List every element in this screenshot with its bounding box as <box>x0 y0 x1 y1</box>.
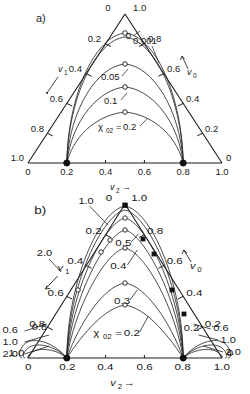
panel-a-bottomright-label: 0 <box>226 152 231 163</box>
panel-b-bottom-tick-1: 0.2 <box>59 361 75 372</box>
panel-a-bottom-tick-1: 0.2 <box>60 166 73 177</box>
panel-b-left-tick-1: 0.4 <box>67 255 83 266</box>
panel-b-right-tick-2: 0.4 <box>186 287 202 298</box>
panel-a-contour-label-text-3: 0.1 <box>104 95 117 106</box>
panel-a-contour-label-3: 0.1 <box>104 93 127 106</box>
panel-a-bottom-tick-5: 1.0 <box>215 166 228 177</box>
panel-b-contour-label-3: 0.3 <box>114 290 137 306</box>
panel-a-bottom-tick-0: 0 <box>25 166 30 177</box>
panel-b-leader-left-text-1: 1.0 <box>2 337 18 347</box>
panel-b-bottom-axis-name: v 2 → <box>110 378 134 391</box>
panel-b-apex-left-label: 0 <box>106 192 113 203</box>
panel-b-bottom-axis-symbol: v <box>110 378 117 388</box>
panel-a-right-tick-1: 0.6 <box>167 63 180 74</box>
panel-a-chi-value: 0.2 <box>123 121 136 132</box>
panel-a-right-axis-name: v 0 <box>181 56 198 79</box>
panel-b: b) 0 1.0 1.0 0 0 0.2 0.4 0.6 0.8 1.0 v 2… <box>0 190 250 394</box>
panel-a-left-tick-0: 0.2 <box>88 33 101 44</box>
panel-b-bottom-axis-arrow: → <box>124 378 135 388</box>
panel-b-contour-label-text-2: 0.4 <box>110 260 126 271</box>
panel-b-extra-left-label-text: 2.0 <box>37 248 53 258</box>
panel-a-left-tick-1: 0.4 <box>69 63 82 74</box>
panel-a-contour-label-text-1: 0.001 <box>133 35 157 46</box>
panel-b-contour-label-text-0: 1.0 <box>78 196 94 206</box>
panel-b-left-axis-sub: 1 <box>65 268 69 276</box>
panel-b-leader-right-text-1: 1.0 <box>221 335 237 345</box>
panel-b-left-tick-0: 0.2 <box>86 225 102 236</box>
panel-a-chi-equals: = <box>116 121 122 132</box>
panel-b-text-layer: b) 0 1.0 1.0 0 0 0.2 0.4 0.6 0.8 1.0 v 2… <box>2 192 241 391</box>
panel-a-apex-left-label: 0 <box>105 2 110 13</box>
panel-b-chi-value: 0.2 <box>124 327 140 338</box>
panel-b-leader-top: 1.0 <box>78 196 107 225</box>
panel-b-contour-label-text-3: 0.3 <box>114 295 130 306</box>
panel-b-label: b) <box>34 204 46 217</box>
panel-a-label: a) <box>36 12 46 24</box>
panel-b-bottom-tick-3: 0.6 <box>137 361 153 372</box>
panel-b-contours-outer <box>19 341 230 358</box>
panel-b-bottom-tick-0: 0 <box>25 361 32 372</box>
panel-b-left-axis-name: v 1 <box>45 263 69 289</box>
panel-a-left-axis-name: v 1 <box>46 64 68 94</box>
panel-b-right-tick-1: 0.6 <box>167 255 183 266</box>
panel-a-bottom-tick-4: 0.8 <box>177 166 190 177</box>
panel-a-left-axis-symbol: v <box>58 64 63 74</box>
panel-b-leaders-right: 0.6 1.0 2.0 0.2 <box>184 323 241 357</box>
panel-b-right-axis-name: v 0 <box>182 250 202 274</box>
panel-a-bottomleft-label: 1.0 <box>11 152 24 163</box>
panel-b-chi-symbol: χ <box>93 327 100 338</box>
panel-a-right-ticks <box>139 44 203 136</box>
panel-b-plot: b) 0 1.0 1.0 0 0 0.2 0.4 0.6 0.8 1.0 v 2… <box>0 190 250 394</box>
panel-a-contours <box>67 33 183 163</box>
panel-b-leader-right-text-2: 2.0 <box>225 347 241 357</box>
panel-b-leader-left-08: 0.8 <box>32 322 48 332</box>
panel-b-leader-right-02: 0.2 <box>184 323 200 333</box>
figure-ternary-diagrams: a) 0 1.0 1.0 0 0 0.2 0.4 0.6 0.8 1.0 v 2… <box>0 0 250 394</box>
panel-b-bottom-tick-4: 0.8 <box>175 361 191 372</box>
panel-a-right-tick-3: 0.2 <box>205 123 218 134</box>
panel-a-contour-label-text-2: 0.05 <box>101 71 120 82</box>
panel-a-chi-label: χ 02 = 0.2 <box>98 119 147 134</box>
panel-b-chi-label: χ 02 = 0.2 <box>93 316 148 341</box>
panel-b-leader-right-text-0: 0.6 <box>213 323 229 333</box>
panel-a: a) 0 1.0 1.0 0 0 0.2 0.4 0.6 0.8 1.0 v 2… <box>0 0 250 197</box>
panel-b-apex-right-label: 1.0 <box>131 192 147 203</box>
panel-b-leader-upper-left: 2.0 <box>37 248 62 272</box>
panel-b-chi-sub: 02 <box>103 333 112 341</box>
panel-a-left-tick-2: 0.6 <box>50 93 63 104</box>
panel-a-chi-symbol: χ <box>98 121 103 132</box>
panel-b-bottom-tick-2: 0.4 <box>97 361 113 372</box>
panel-a-chi-sub: 02 <box>106 127 114 134</box>
panel-a-bottom-tick-2: 0.4 <box>99 166 112 177</box>
panel-b-bottom-tick-5: 1.0 <box>214 361 230 372</box>
panel-a-right-axis-sub: 0 <box>193 72 197 79</box>
panel-b-leader-left-text-2: 2.0 <box>2 349 18 359</box>
panel-b-right-tick-0: 0.8 <box>147 225 163 236</box>
panel-b-right-axis-sub: 0 <box>197 266 201 274</box>
panel-a-contour-label-2: 0.05 <box>101 69 128 82</box>
panel-b-contour-label-text-1: 0.5 <box>115 237 131 248</box>
panel-b-leader-left-text-0: 0.6 <box>2 325 18 335</box>
panel-a-right-tick-2: 0.4 <box>186 93 199 104</box>
panel-b-bottom-axis-sub: 2 <box>118 383 122 391</box>
panel-a-bottom-tick-3: 0.6 <box>138 166 151 177</box>
panel-a-contour-label-text-0: 0 <box>126 30 131 41</box>
panel-b-chi-equals: = <box>115 327 122 338</box>
panel-a-left-axis-sub: 1 <box>64 69 68 76</box>
panel-b-right-axis-symbol: v <box>190 261 197 271</box>
panel-a-left-tick-3: 0.8 <box>31 123 44 134</box>
panel-b-contour-label-2: 0.4 <box>110 250 137 271</box>
panel-a-plot: a) 0 1.0 1.0 0 0 0.2 0.4 0.6 0.8 1.0 v 2… <box>0 0 250 197</box>
panel-b-leaders-left: 0.6 1.0 2.0 0.8 <box>2 322 49 359</box>
panel-a-apex-right-label: 1.0 <box>133 2 146 13</box>
